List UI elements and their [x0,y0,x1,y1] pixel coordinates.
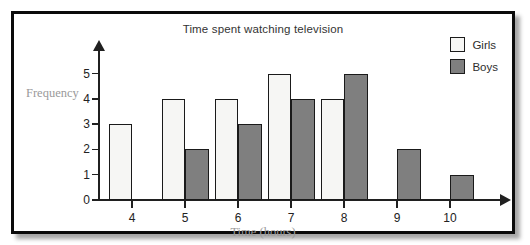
x-axis-tick-label: 8 [332,211,356,225]
y-axis-tick [92,174,99,176]
x-axis-tick [449,200,451,208]
bar-boys-10 [450,175,474,200]
bar-girls-8 [321,99,345,200]
x-axis-arrow-icon [500,194,511,206]
bar-boys-9 [397,149,421,200]
y-axis-tick [92,199,99,201]
y-axis-title: Frequency [26,86,79,101]
plot-area: 012345 45678910 Frequency Time (hours) [14,14,512,231]
x-axis-title: Time (hours) [14,225,512,240]
bar-boys-5 [185,149,209,200]
chart-panel: Time spent watching television Girls Boy… [11,11,515,234]
x-axis-tick [237,200,239,208]
bar-boys-7 [291,99,315,200]
x-axis-tick [131,200,133,208]
y-axis-tick [92,73,99,75]
x-axis-tick [396,200,398,208]
y-axis-tick-label: 0 [64,193,90,207]
bar-girls-4 [109,124,133,200]
y-axis-tick [92,123,99,125]
y-axis-arrow-icon [93,40,105,51]
x-axis-tick-label: 10 [438,211,462,225]
bar-girls-7 [268,74,292,201]
x-axis-tick [184,200,186,208]
x-axis-tick [343,200,345,208]
y-axis-tick-label: 2 [64,142,90,156]
y-axis-tick-label: 5 [64,67,90,81]
screenshot-root: Time spent watching television Girls Boy… [0,0,530,245]
x-axis-tick-label: 6 [226,211,250,225]
x-axis-tick-label: 7 [279,211,303,225]
bar-boys-8 [344,74,368,201]
y-axis-tick [92,98,99,100]
x-axis-tick-label: 4 [120,211,144,225]
y-axis-tick-label: 3 [64,117,90,131]
x-axis-tick [290,200,292,208]
y-axis-tick-label: 1 [64,168,90,182]
x-axis-tick-label: 9 [385,211,409,225]
bar-girls-5 [162,99,186,200]
x-axis-tick-label: 5 [173,211,197,225]
bar-girls-6 [215,99,239,200]
bar-boys-6 [238,124,262,200]
y-axis-tick [92,149,99,151]
